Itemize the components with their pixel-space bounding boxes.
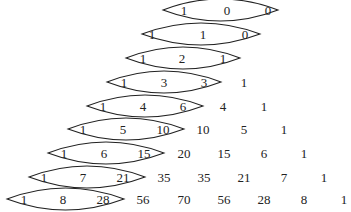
triangle-value: 10 (197, 122, 210, 137)
triangle-value: 1 (121, 75, 128, 90)
triangle-value: 1 (149, 27, 156, 42)
triangle-value: 20 (178, 146, 191, 161)
triangle-row-4: 14641 (87, 95, 267, 117)
triangle-value: 8 (60, 192, 67, 207)
triangle-value: 3 (161, 75, 168, 90)
triangle-value: 5 (241, 122, 248, 137)
triangle-value: 0 (224, 3, 231, 18)
triangle-value: 28 (97, 192, 110, 207)
triangle-value: 1 (181, 3, 188, 18)
triangle-value: 5 (120, 122, 127, 137)
triangle-value: 1 (61, 146, 68, 161)
triangle-value: 0 (265, 3, 272, 18)
triangle-value: 1 (281, 122, 288, 137)
triangle-value: 1 (301, 146, 308, 161)
triangle-value: 7 (281, 170, 288, 185)
triangle-value: 35 (198, 170, 211, 185)
triangle-row-6: 1615201561 (48, 142, 307, 164)
triangle-value: 15 (138, 146, 151, 161)
triangle-value: 70 (178, 192, 191, 207)
triangle-value: 4 (140, 99, 147, 114)
triangle-value: 1 (321, 170, 328, 185)
triangle-value: 56 (218, 192, 232, 207)
triangle-value: 1 (220, 51, 227, 66)
triangle-value: 1 (21, 192, 28, 207)
triangle-row-1: 110 (142, 23, 260, 45)
triangle-value: 15 (218, 146, 231, 161)
triangle-row-7: 172135352171 (29, 166, 327, 188)
triangle-value: 7 (80, 170, 87, 185)
triangle-value: 1 (241, 75, 248, 90)
triangle-value: 1 (341, 192, 348, 207)
triangle-value: 3 (201, 75, 208, 90)
triangle-value: 35 (158, 170, 171, 185)
triangle-value: 10 (157, 122, 170, 137)
triangle-row-5: 15101051 (68, 118, 287, 140)
triangle-value: 6 (180, 99, 187, 114)
triangle-row-8: 18285670562881 (7, 188, 347, 210)
triangle-value: 1 (261, 99, 268, 114)
triangle-value: 4 (220, 99, 227, 114)
triangle-value: 56 (137, 192, 151, 207)
triangle-value: 8 (301, 192, 308, 207)
triangle-value: 1 (80, 122, 87, 137)
triangle-value: 21 (117, 170, 130, 185)
triangle-row-2: 121 (126, 47, 240, 69)
triangle-value: 1 (100, 99, 107, 114)
triangle-value: 2 (179, 51, 186, 66)
triangle-row-3: 1331 (107, 71, 247, 93)
triangle-value: 1 (140, 51, 147, 66)
triangle-value: 1 (41, 170, 48, 185)
triangle-value: 6 (261, 146, 268, 161)
pascal-triangle-diagram: 1001101211331146411510105116152015611721… (0, 0, 351, 212)
triangle-value: 28 (258, 192, 271, 207)
triangle-value: 21 (238, 170, 251, 185)
triangle-value: 6 (101, 146, 108, 161)
triangle-value: 1 (200, 27, 207, 42)
triangle-row-0: 100 (163, 0, 278, 21)
triangle-value: 0 (242, 27, 249, 42)
